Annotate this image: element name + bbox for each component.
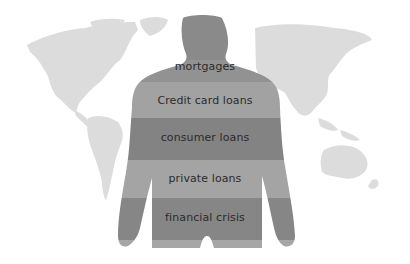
debt-body-illustration: mortgages Credit card loans consumer loa… bbox=[0, 0, 410, 264]
band-label-consumer-loans: consumer loans bbox=[0, 131, 410, 144]
band-label-mortgages: mortgages bbox=[0, 60, 410, 73]
band-label-private-loans: private loans bbox=[0, 172, 410, 185]
band-label-financial-crisis: financial crisis bbox=[0, 211, 410, 224]
band-label-credit-card-loans: Credit card loans bbox=[0, 94, 410, 107]
